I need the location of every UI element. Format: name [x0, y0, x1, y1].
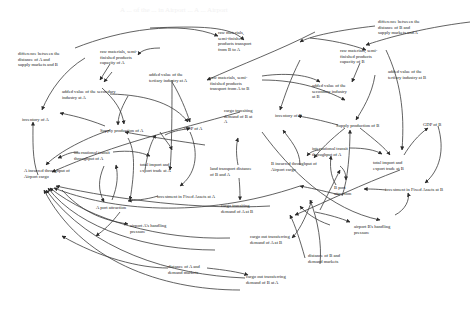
edge — [113, 151, 150, 156]
node-A-incurred-throughput: A incurred throughput of Airport cargo — [24, 168, 70, 179]
edge — [128, 196, 158, 201]
edge — [112, 165, 117, 200]
edge — [425, 126, 441, 183]
edge — [280, 60, 300, 110]
edge — [340, 166, 346, 180]
node-supply-production-A: Supply production of A — [100, 128, 143, 134]
node-raw-transport-B-to-A: raw materials, semi-finished products tr… — [218, 30, 251, 52]
node-distance-A-demand: distance of A and demand markets — [168, 264, 200, 275]
faint-header-text: A ... of the ... in Airport ... A ... Ai… — [120, 6, 228, 14]
node-secondary-industry-A: added value of the secondary industry at… — [62, 89, 116, 100]
edge — [364, 189, 386, 190]
node-secondary-industry-B: added value of the secondary industry at… — [312, 83, 347, 100]
node-total-trade-A: total import and export trade at A — [140, 162, 171, 173]
edge — [104, 72, 112, 82]
node-raw-transport-A-to-B: raw materials, semi- finished products t… — [210, 75, 249, 92]
node-investment-fixed-B: investment in Fixed Assets at B — [385, 187, 443, 193]
node-raw-capacity-B: raw materials, semi- finished products c… — [340, 48, 377, 65]
edge — [172, 82, 190, 122]
node-intl-transit-A: international transit throughput of A — [74, 150, 110, 161]
node-land-distance: land transport distance of B and A — [210, 166, 252, 177]
edge — [138, 48, 160, 55]
node-raw-capacity-A: raw materials, semi- finished products c… — [100, 49, 137, 66]
node-tertiary-industry-A: added value of the tertiary industry at … — [149, 72, 187, 83]
node-tertiary-industry-B: added value of the tertiary industry at … — [388, 69, 426, 80]
node-diff-B: difference between the distance of B and… — [378, 19, 420, 36]
edge — [100, 166, 105, 202]
node-intl-transit-B: international transit throughput of A — [312, 146, 348, 157]
node-gdp-A: GDP of A — [184, 126, 202, 132]
edge — [331, 156, 336, 185]
edge — [237, 138, 239, 165]
edge — [350, 148, 382, 154]
node-diff-A: difference between the distance of A and… — [18, 51, 60, 68]
edge — [239, 178, 240, 200]
node-cargo-transit-A-at-B: cargo transiting demand of A at B — [221, 203, 253, 214]
edge — [404, 128, 428, 155]
edge — [62, 236, 168, 268]
edge — [100, 64, 110, 80]
edge — [315, 212, 350, 222]
node-investment-fixed-A: investment in Fixed Assets at A — [157, 194, 215, 200]
node-cargo-out-B-at-A: cargo out transferring demand of B at A — [246, 274, 286, 285]
edge — [60, 113, 105, 126]
node-B-port-attraction: B port attraction — [334, 185, 351, 196]
edge — [283, 130, 300, 165]
edge — [292, 200, 312, 238]
node-cargo-transit-B-at-A: cargo transiting demand of B at A — [224, 108, 253, 125]
node-total-trade-B: total import and export trade at B — [373, 160, 404, 171]
edge — [352, 63, 360, 82]
edge — [207, 268, 248, 275]
edge — [125, 132, 205, 145]
node-gdp-B: GDP of B — [423, 122, 441, 128]
edge — [356, 75, 375, 120]
edge — [386, 50, 403, 150]
node-inventory-A: inventory of A — [22, 117, 49, 123]
node-inventory-B: inventory of B — [275, 113, 302, 119]
edge — [75, 28, 218, 48]
edge — [128, 138, 134, 200]
edge — [298, 116, 338, 125]
edge — [180, 132, 195, 186]
edge — [170, 80, 172, 170]
node-B-incurred-throughput: B incurred throughput of Airport cargo — [271, 161, 317, 172]
edge — [395, 193, 408, 215]
node-distance-B-demand: distance of B and demand markets — [308, 253, 340, 264]
node-handling-pressure-A: airport A's handling pressure — [130, 223, 166, 234]
node-handling-pressure-B: airport B's handling pressure — [354, 224, 390, 235]
node-A-port-attraction: A port attraction — [96, 205, 126, 211]
node-supply-production-B: Supply production of B — [336, 123, 379, 129]
node-cargo-out-A-at-B: cargo out transferring demand of A at B — [250, 234, 290, 245]
